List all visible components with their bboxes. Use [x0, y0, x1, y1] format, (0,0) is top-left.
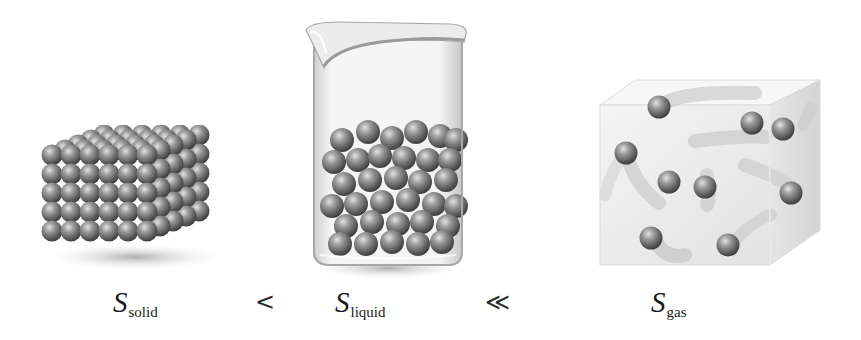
- sphere-icon: [137, 145, 158, 166]
- sphere-icon: [80, 202, 101, 223]
- sphere-icon: [61, 221, 82, 242]
- sphere-icon: [99, 202, 120, 223]
- sphere-icon: [80, 145, 101, 166]
- sphere-icon: [118, 145, 139, 166]
- sphere-icon: [615, 142, 638, 165]
- relation-much-less-than: ≪: [485, 288, 510, 316]
- sphere-icon: [99, 183, 120, 204]
- sphere-icon: [80, 183, 101, 204]
- sphere-icon: [99, 164, 120, 185]
- sphere-icon: [741, 112, 764, 135]
- sphere-icon: [118, 164, 139, 185]
- sphere-icon: [694, 176, 717, 199]
- sphere-icon: [61, 202, 82, 223]
- sphere-icon: [410, 210, 434, 234]
- sphere-icon: [332, 172, 356, 196]
- sphere-icon: [118, 221, 139, 242]
- sphere-icon: [772, 118, 795, 141]
- sphere-icon: [330, 128, 354, 152]
- sphere-icon: [320, 194, 344, 218]
- solid-lattice-illustration: [30, 125, 240, 275]
- sphere-icon: [438, 148, 462, 172]
- sphere-icon: [42, 145, 63, 166]
- sphere-icon: [137, 164, 158, 185]
- sphere-icon: [328, 232, 352, 256]
- sphere-icon: [61, 164, 82, 185]
- relation-less-than: <: [255, 288, 275, 316]
- entropy-symbol: S: [335, 286, 350, 318]
- sphere-icon: [406, 232, 430, 256]
- sphere-icon: [61, 183, 82, 204]
- sphere-icon: [42, 183, 63, 204]
- sphere-icon: [344, 192, 368, 216]
- sphere-icon: [380, 230, 404, 254]
- sphere-icon: [648, 96, 671, 119]
- sphere-icon: [430, 230, 454, 254]
- liquid-beaker-illustration: [300, 0, 475, 285]
- sphere-icon: [434, 168, 458, 192]
- sphere-icon: [358, 168, 382, 192]
- subscript-liquid: liquid: [351, 304, 386, 320]
- sphere-icon: [346, 148, 370, 172]
- subscript-solid: solid: [129, 304, 158, 320]
- sphere-icon: [118, 183, 139, 204]
- sphere-icon: [42, 202, 63, 223]
- sphere-icon: [360, 210, 384, 234]
- label-s-gas: Sgas: [651, 286, 687, 319]
- sphere-icon: [416, 148, 440, 172]
- sphere-icon: [322, 150, 346, 174]
- sphere-icon: [137, 221, 158, 242]
- sphere-icon: [780, 182, 803, 205]
- sphere-icon: [137, 202, 158, 223]
- label-s-liquid: Sliquid: [335, 286, 386, 319]
- sphere-icon: [356, 120, 380, 144]
- sphere-icon: [396, 188, 420, 212]
- sphere-icon: [354, 232, 378, 256]
- sphere-icon: [99, 145, 120, 166]
- sphere-icon: [384, 166, 408, 190]
- entropy-symbol: S: [113, 286, 128, 318]
- sphere-icon: [99, 221, 120, 242]
- sphere-icon: [640, 227, 663, 250]
- sphere-icon: [80, 164, 101, 185]
- subscript-gas: gas: [667, 304, 687, 320]
- sphere-icon: [80, 221, 101, 242]
- sphere-icon: [118, 202, 139, 223]
- sphere-icon: [717, 234, 740, 257]
- sphere-icon: [137, 183, 158, 204]
- sphere-icon: [404, 120, 428, 144]
- gas-box-illustration: [595, 75, 825, 275]
- entropy-symbol: S: [651, 286, 666, 318]
- sphere-icon: [42, 221, 63, 242]
- label-s-solid: Ssolid: [113, 286, 158, 319]
- sphere-icon: [368, 144, 392, 168]
- sphere-icon: [658, 171, 681, 194]
- sphere-icon: [61, 145, 82, 166]
- sphere-icon: [42, 164, 63, 185]
